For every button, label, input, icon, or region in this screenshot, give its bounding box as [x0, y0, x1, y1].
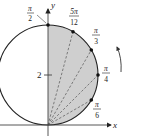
shaded-region — [48, 25, 98, 125]
pi-2-leader — [37, 15, 46, 23]
point-pi-3 — [90, 48, 94, 52]
x-axis-label: x — [112, 120, 117, 130]
svg-text:4: 4 — [104, 75, 108, 84]
ccw-rotation-arrow-icon — [117, 47, 121, 72]
label-pi-over-6: π 6 — [93, 100, 101, 120]
label-pi-over-3: π 3 — [92, 26, 100, 46]
label-pi-over-2: π 2 — [27, 4, 34, 23]
svg-text:π: π — [95, 100, 99, 109]
svg-text:2: 2 — [28, 14, 32, 23]
point-pi-6 — [90, 98, 94, 102]
label-5pi-over-12: 5π 12 — [69, 7, 79, 27]
point-pi-4 — [96, 73, 100, 77]
svg-text:3: 3 — [94, 37, 98, 46]
svg-text:6: 6 — [95, 111, 99, 120]
label-pi-over-4: π 4 — [102, 64, 110, 84]
y-axis-label: y — [50, 0, 55, 10]
svg-text:π: π — [104, 64, 108, 73]
svg-text:5π: 5π — [70, 7, 78, 16]
svg-text:π: π — [94, 26, 98, 35]
polar-diagram: y x 2 π 2 5π 12 π 3 π 4 π 6 — [0, 0, 141, 139]
svg-text:π: π — [28, 4, 32, 13]
y-tick-label: 2 — [37, 70, 42, 80]
point-5pi-12 — [71, 30, 75, 34]
point-pi-2 — [46, 23, 50, 27]
svg-text:12: 12 — [70, 18, 78, 27]
